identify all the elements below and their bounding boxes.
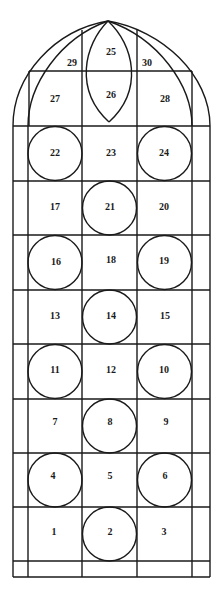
panel-label: 1 [52,526,57,537]
outer-arch-left [13,21,108,126]
outer-arch-right [108,21,210,126]
panel-label: 8 [108,416,113,427]
panel-label-26: 26 [106,89,116,100]
panel-label: 21 [105,201,115,212]
panel-label: 24 [159,147,169,158]
panel-label: 11 [50,364,59,375]
panel-label: 7 [53,416,58,427]
panel-label: 20 [159,201,169,212]
panel-label: 13 [50,310,60,321]
window-diagram: 25 26 27 28 29 30 22 23 24 17 21 20 16 1… [0,0,223,596]
panel-label: 10 [159,364,169,375]
panel-label: 2 [108,526,113,537]
panel-label: 9 [164,416,169,427]
window-frame [13,126,210,577]
panel-label: 17 [50,201,60,212]
panel-label: 18 [106,254,116,265]
panel-label: 5 [108,470,113,481]
panel-label: 4 [51,470,56,481]
panel-label: 19 [159,255,169,266]
tracery-labels: 25 26 27 28 29 30 [50,46,170,104]
window-arch [13,21,210,126]
panel-labels: 22 23 24 17 21 20 16 18 19 13 14 15 11 1… [50,147,170,537]
panel-label: 12 [106,364,116,375]
panel-label: 15 [160,310,170,321]
panel-label: 22 [50,147,60,158]
panel-label: 3 [162,526,167,537]
panel-label-29: 29 [67,57,77,68]
panel-label: 14 [106,310,116,321]
panel-label: 6 [163,470,168,481]
panel-label: 23 [106,147,116,158]
panel-label-30: 30 [142,57,152,68]
panel-label-28: 28 [160,93,170,104]
panel-label-25: 25 [106,46,116,57]
panel-label: 16 [51,256,61,267]
panel-label-27: 27 [50,93,60,104]
